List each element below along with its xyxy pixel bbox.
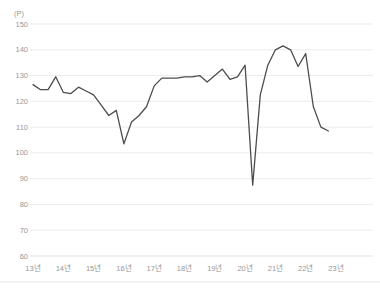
data-line-index	[33, 46, 328, 185]
y-tick-label: 130	[15, 71, 28, 80]
x-tick-label: 17년	[147, 263, 162, 273]
x-tick-label: 18년	[177, 263, 192, 273]
y-axis-unit-label: (P)	[14, 9, 25, 18]
x-tick-label: 13년	[25, 263, 40, 273]
chart-canvas: 15014013012011010090807060(P)13년14년15년16…	[0, 0, 380, 288]
y-tick-label: 70	[20, 226, 28, 235]
y-tick-label: 110	[16, 123, 28, 132]
y-tick-label: 150	[15, 20, 28, 29]
y-tick-label: 140	[15, 45, 28, 54]
x-tick-label: 19년	[207, 263, 222, 273]
x-tick-label: 21년	[268, 263, 283, 273]
x-tick-label: 22년	[298, 263, 313, 273]
y-tick-label: 120	[15, 97, 28, 106]
x-tick-label: 23년	[328, 263, 343, 273]
x-tick-label: 16년	[116, 263, 131, 273]
y-tick-label: 80	[20, 200, 28, 209]
y-tick-label: 90	[20, 174, 28, 183]
x-tick-label: 14년	[56, 263, 71, 273]
y-tick-label: 100	[15, 148, 28, 157]
line-chart: 15014013012011010090807060(P)13년14년15년16…	[0, 0, 380, 288]
x-tick-label: 20년	[237, 263, 252, 273]
x-tick-label: 15년	[86, 263, 101, 273]
y-tick-label: 60	[20, 252, 28, 261]
